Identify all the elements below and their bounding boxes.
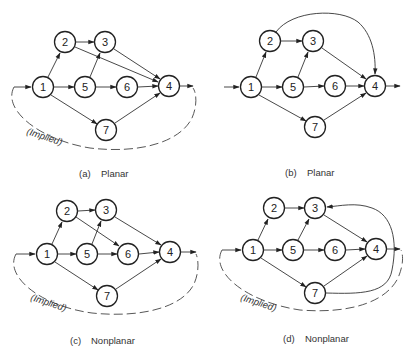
node-6: 6 (117, 77, 138, 98)
svg-text:5: 5 (290, 81, 296, 93)
svg-text:6: 6 (125, 248, 131, 260)
node-1: 1 (241, 77, 262, 98)
svg-text:7: 7 (312, 121, 318, 133)
svg-text:4: 4 (167, 246, 173, 258)
node-7: 7 (96, 120, 117, 141)
node-5: 5 (283, 240, 304, 261)
caption-letter: (b) (285, 167, 297, 178)
caption-letter: (a) (79, 168, 91, 179)
node-3: 3 (95, 32, 116, 53)
edge-7-4 (324, 256, 367, 286)
edge-2-4-curved (276, 13, 375, 74)
edge-3-4 (115, 217, 161, 245)
node-7: 7 (97, 286, 118, 307)
edge-1-2 (48, 53, 60, 77)
node-2: 2 (55, 32, 76, 53)
node-2: 2 (260, 31, 281, 52)
edge-1-2 (52, 222, 62, 244)
implied-label: (Implied) (239, 291, 278, 313)
node-6: 6 (325, 76, 346, 97)
node-5: 5 (77, 244, 98, 265)
edge-3-4 (114, 49, 160, 79)
edge-5-3 (298, 52, 308, 77)
implied-label: (Implied) (25, 125, 64, 147)
edge-1-7 (261, 258, 306, 287)
svg-text:2: 2 (62, 36, 68, 48)
svg-text:5: 5 (82, 81, 88, 93)
node-3: 3 (305, 198, 326, 219)
svg-text:2: 2 (64, 205, 70, 217)
svg-text:6: 6 (124, 81, 130, 93)
svg-text:1: 1 (40, 81, 46, 93)
svg-text:5: 5 (290, 244, 296, 256)
caption-text: Planar (307, 167, 334, 178)
caption-letter: (c) (70, 335, 81, 346)
edge-3-4 (324, 215, 367, 242)
node-7: 7 (305, 117, 326, 138)
implied-label: (Implied) (29, 291, 68, 313)
node-4: 4 (160, 242, 181, 263)
svg-text:5: 5 (84, 248, 90, 260)
node-3: 3 (303, 31, 324, 52)
node-4: 4 (366, 239, 387, 260)
svg-text:7: 7 (103, 124, 109, 136)
node-5: 5 (283, 77, 304, 98)
svg-text:2: 2 (267, 35, 273, 47)
svg-text:6: 6 (332, 80, 338, 92)
node-3: 3 (96, 200, 117, 221)
edge-6-4 (139, 252, 159, 254)
panel-c: (Implied) 1 2 3 5 6 4 7 (c) Nonplanar (14, 200, 198, 347)
edge-1-2 (256, 52, 266, 77)
svg-text:7: 7 (312, 287, 318, 299)
svg-text:1: 1 (250, 244, 256, 256)
svg-text:4: 4 (166, 80, 172, 92)
edge-3-4 (322, 48, 366, 79)
edge-7-4 (115, 93, 160, 123)
edge-6-4 (346, 249, 365, 250)
edge-1-7 (51, 95, 97, 124)
network-diagram-figure: (Implied) 1 2 3 5 6 4 7 (a) Planar (0, 0, 416, 356)
edge-5-3 (298, 219, 309, 240)
node-1: 1 (243, 240, 264, 261)
node-5: 5 (75, 77, 96, 98)
edge-6-4 (138, 86, 158, 87)
svg-text:1: 1 (248, 81, 254, 93)
caption-text: Nonplanar (91, 335, 135, 346)
edge-2-3 (78, 210, 95, 211)
svg-text:1: 1 (44, 248, 50, 260)
edge-1-7 (259, 95, 306, 121)
panel-d: (Implied) 1 2 3 5 6 4 7 (d) Nonplanar (220, 198, 403, 345)
panel-a: (Implied) 1 2 3 5 6 4 7 (a) Planar (12, 32, 196, 180)
edge-1-7 (55, 262, 98, 290)
svg-text:3: 3 (103, 204, 109, 216)
svg-text:6: 6 (332, 244, 338, 256)
node-6: 6 (118, 244, 139, 265)
svg-text:2: 2 (271, 202, 277, 214)
node-4: 4 (159, 76, 180, 97)
node-6: 6 (325, 240, 346, 261)
node-2: 2 (264, 198, 285, 219)
caption-text: Nonplanar (305, 333, 349, 344)
svg-text:7: 7 (104, 290, 110, 302)
edge-5-6 (304, 86, 324, 87)
node-7: 7 (305, 283, 326, 304)
svg-text:4: 4 (372, 80, 378, 92)
edge-2-6 (76, 217, 119, 246)
node-1: 1 (37, 244, 58, 265)
edge-5-3 (90, 53, 100, 77)
svg-text:4: 4 (373, 243, 379, 255)
edge-1-2 (258, 219, 268, 240)
panel-b: 1 2 3 5 6 4 7 (b) Planar (224, 13, 400, 178)
svg-text:3: 3 (310, 35, 316, 47)
caption-letter: (d) (283, 333, 295, 344)
node-1: 1 (33, 77, 54, 98)
edge-7-4 (324, 93, 366, 120)
node-4: 4 (365, 76, 386, 97)
caption-text: Planar (101, 168, 128, 179)
svg-text:3: 3 (312, 202, 318, 214)
svg-text:3: 3 (102, 36, 108, 48)
node-2: 2 (57, 201, 78, 222)
